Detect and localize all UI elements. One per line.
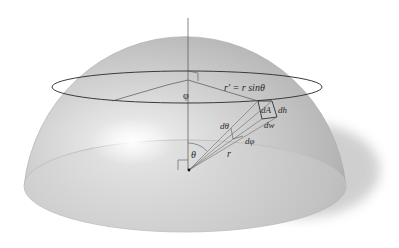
label-r: r — [227, 148, 231, 159]
label-dh: dh — [278, 105, 288, 115]
label-phi: φ — [183, 90, 189, 101]
hemisphere-diagram: φ r′ = r sinθ dA dh dw dθ dφ θ r — [0, 0, 399, 248]
label-dA: dA — [261, 105, 272, 115]
label-dw: dw — [264, 120, 275, 130]
center-point — [188, 169, 191, 172]
label-r-prime: r′ = r sinθ — [224, 82, 265, 93]
dome-highlight — [90, 118, 174, 166]
label-theta: θ — [191, 149, 196, 160]
label-dtheta: dθ — [220, 121, 230, 131]
label-dphi: dφ — [245, 136, 255, 146]
